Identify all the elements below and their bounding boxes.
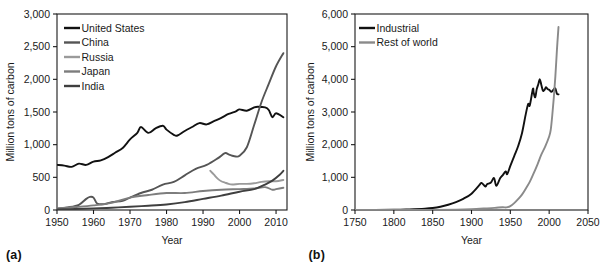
legend-label-industrial: Industrial bbox=[376, 22, 419, 34]
x-tick-label: 1950 bbox=[498, 216, 522, 228]
y-tick-label: 4,000 bbox=[321, 73, 347, 85]
y-tick-label: 0 bbox=[44, 204, 50, 216]
y-tick-label: 500 bbox=[32, 171, 50, 183]
x-tick-label: 2000 bbox=[537, 216, 561, 228]
x-tick-label: 1950 bbox=[45, 216, 69, 228]
y-tick-label: 1,000 bbox=[321, 171, 347, 183]
x-axis-title: Year bbox=[161, 234, 183, 246]
x-tick-label: 1980 bbox=[155, 216, 179, 228]
y-axis-title: Million tons of carbon bbox=[304, 62, 316, 161]
x-tick-label: 1750 bbox=[343, 216, 367, 228]
chart-b-svg: 01,0002,0003,0004,0005,0006,000175018001… bbox=[303, 0, 605, 268]
chart-panel-b: 01,0002,0003,0004,0005,0006,000175018001… bbox=[303, 0, 605, 268]
y-tick-label: 1,000 bbox=[24, 138, 50, 150]
y-tick-label: 2,000 bbox=[321, 138, 347, 150]
figure-container: 05001,0001,5002,0002,5003,00019501960197… bbox=[0, 0, 605, 268]
legend-label-rest-of-world: Rest of world bbox=[376, 36, 437, 48]
legend-label-japan: Japan bbox=[82, 65, 111, 77]
chart-a-svg: 05001,0001,5002,0002,5003,00019501960197… bbox=[0, 0, 302, 268]
y-tick-label: 1,500 bbox=[24, 106, 50, 118]
x-axis-title: Year bbox=[460, 234, 482, 246]
y-tick-label: 6,000 bbox=[321, 8, 347, 20]
x-tick-label: 1990 bbox=[191, 216, 215, 228]
x-tick-label: 2010 bbox=[264, 216, 288, 228]
y-tick-label: 3,000 bbox=[321, 106, 347, 118]
x-tick-label: 1850 bbox=[420, 216, 444, 228]
panel-b-tag: (b) bbox=[309, 248, 326, 262]
y-tick-label: 3,000 bbox=[24, 8, 50, 20]
panel-a-tag: (a) bbox=[6, 248, 22, 262]
legend-label-united-states: United States bbox=[82, 22, 145, 34]
legend-label-china: China bbox=[82, 36, 110, 48]
x-tick-label: 2000 bbox=[228, 216, 252, 228]
x-tick-label: 1970 bbox=[118, 216, 142, 228]
legend-label-india: India bbox=[82, 80, 105, 92]
y-tick-label: 2,500 bbox=[24, 40, 50, 52]
y-axis-title: Million tons of carbon bbox=[4, 62, 16, 161]
y-tick-label: 2,000 bbox=[24, 73, 50, 85]
x-tick-label: 1960 bbox=[82, 216, 106, 228]
x-tick-label: 1800 bbox=[382, 216, 406, 228]
legend-label-russia: Russia bbox=[82, 51, 114, 63]
chart-panel-a: 05001,0001,5002,0002,5003,00019501960197… bbox=[0, 0, 303, 268]
y-tick-label: 5,000 bbox=[321, 40, 347, 52]
y-tick-label: 0 bbox=[342, 204, 348, 216]
x-tick-label: 1900 bbox=[459, 216, 483, 228]
x-tick-label: 2050 bbox=[576, 216, 600, 228]
